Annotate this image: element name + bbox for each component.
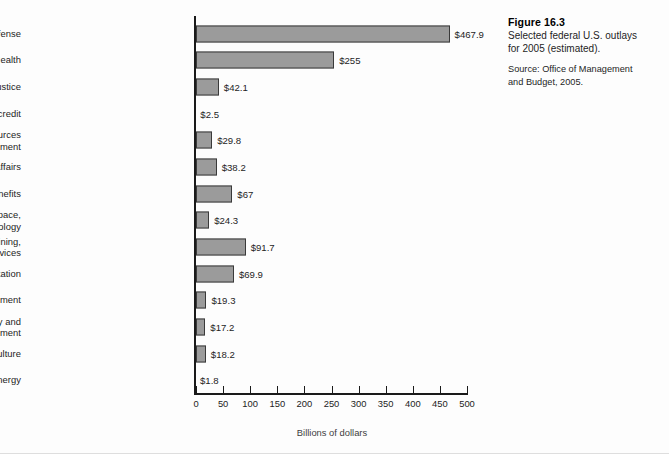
bar-row: Education, training, employment and soci… — [0, 234, 500, 261]
bar-value-label: $29.8 — [217, 135, 241, 146]
bar-and-value: $255 — [196, 52, 361, 69]
category-label: Energy — [0, 375, 21, 386]
bar-and-value: $1.8 — [196, 372, 219, 389]
bar-value-label: $17.2 — [210, 321, 234, 332]
category-label: General government — [0, 295, 21, 306]
x-axis-tick — [277, 386, 278, 394]
x-axis-tick — [332, 386, 333, 394]
bar — [196, 238, 246, 255]
bar-and-value: $91.7 — [196, 238, 275, 255]
bar-and-value: $67 — [196, 185, 253, 202]
x-axis-tick — [413, 386, 414, 394]
bar-value-label: $2.5 — [200, 108, 219, 119]
x-axis-tick-label: 400 — [405, 398, 421, 409]
x-axis-tick-label: 100 — [242, 398, 258, 409]
category-label: Natural resources and environment — [0, 129, 21, 152]
category-label: Science, space, and technology — [0, 209, 21, 232]
bar — [196, 212, 209, 229]
category-label: National defense — [0, 28, 21, 39]
category-label: Community and regional development — [0, 316, 21, 339]
bar-row: National defense$467.9 — [0, 21, 500, 48]
bar-row: Health$255 — [0, 47, 500, 74]
bar-value-label: $42.1 — [224, 82, 248, 93]
x-axis-tick — [440, 386, 441, 394]
bar-and-value: $18.2 — [196, 345, 235, 362]
category-label: Transportation — [0, 268, 21, 279]
bar-value-label: $467.9 — [455, 28, 484, 39]
bar-row: Transportation$69.9 — [0, 260, 500, 287]
category-label: Education, training, employment and soci… — [0, 236, 21, 259]
bar-row: Veterans benefits$67 — [0, 180, 500, 207]
bar-row: Community and regional development$17.2 — [0, 314, 500, 341]
bar — [196, 132, 212, 149]
bar-value-label: $18.2 — [211, 348, 235, 359]
x-axis-tick — [196, 386, 197, 394]
category-label: Health — [0, 55, 21, 66]
bar — [196, 52, 334, 69]
bar-and-value: $69.9 — [196, 265, 263, 282]
bar-and-value: $17.2 — [196, 318, 234, 335]
bar-row: Science, space, and technology$24.3 — [0, 207, 500, 234]
x-axis-tick-label: 300 — [351, 398, 367, 409]
bar-row: Commerce and housing credit$2.5 — [0, 100, 500, 127]
bar — [196, 79, 219, 96]
x-axis-tick — [359, 386, 360, 394]
x-axis-tick-label: 250 — [324, 398, 340, 409]
bar-value-label: $24.3 — [214, 215, 238, 226]
x-axis-tick — [386, 386, 387, 394]
bar-value-label: $255 — [339, 55, 360, 66]
bar-value-label: $91.7 — [251, 241, 275, 252]
bar-value-label: $1.8 — [200, 375, 219, 386]
category-label: Justice — [0, 81, 21, 92]
figure-container: National defense$467.9Health$255Justice$… — [0, 0, 669, 454]
figure-source-line-2: and Budget, 2005. — [508, 76, 658, 88]
bar-row: Justice$42.1 — [0, 74, 500, 101]
bar-and-value: $19.3 — [196, 292, 235, 309]
bar — [196, 25, 450, 42]
y-axis-line — [194, 16, 196, 394]
category-label: Commerce and housing credit — [0, 108, 21, 119]
figure-description-line-2: for 2005 (estimated). — [508, 42, 658, 55]
bar — [196, 105, 197, 122]
bar — [196, 159, 217, 176]
bar-row: International affairs$38.2 — [0, 154, 500, 181]
bar-value-label: $38.2 — [222, 162, 246, 173]
x-axis-tick-label: 50 — [218, 398, 228, 409]
bar — [196, 185, 232, 202]
x-axis-tick — [250, 386, 251, 394]
bar — [196, 318, 205, 335]
x-axis-tick — [223, 386, 224, 394]
figure-description-line-1: Selected federal U.S. outlays — [508, 29, 658, 42]
bar-value-label: $67 — [237, 188, 253, 199]
x-axis-tick — [304, 386, 305, 394]
x-axis-tick — [467, 386, 468, 394]
x-axis-tick-label: 350 — [378, 398, 394, 409]
bar-value-label: $19.3 — [211, 295, 235, 306]
bar-and-value: $29.8 — [196, 132, 241, 149]
category-label: International affairs — [0, 161, 21, 172]
figure-number: Figure 16.3 — [508, 16, 658, 28]
category-label: Veterans benefits — [0, 188, 21, 199]
x-axis-title: Billions of dollars — [196, 427, 468, 438]
figure-source-line-1: Source: Office of Management — [508, 63, 658, 75]
bar-value-label: $69.9 — [239, 268, 263, 279]
x-axis-tick-label: 200 — [297, 398, 313, 409]
bar-row: General government$19.3 — [0, 287, 500, 314]
bar-and-value: $467.9 — [196, 25, 484, 42]
figure-caption: Figure 16.3 Selected federal U.S. outlay… — [508, 16, 658, 88]
bar-row: Natural resources and environment$29.8 — [0, 127, 500, 154]
bar-and-value: $2.5 — [196, 105, 219, 122]
bar-and-value: $38.2 — [196, 159, 246, 176]
x-axis-tick-label: 0 — [193, 398, 198, 409]
x-axis-tick-label: 500 — [459, 398, 475, 409]
bar — [196, 292, 206, 309]
bar — [196, 345, 206, 362]
bar-and-value: $24.3 — [196, 212, 238, 229]
bar-row: Agriculture$18.2 — [0, 340, 500, 367]
x-axis-tick-label: 450 — [432, 398, 448, 409]
bar-and-value: $42.1 — [196, 79, 248, 96]
figure-source: Source: Office of Management and Budget,… — [508, 63, 658, 87]
category-label: Agriculture — [0, 348, 21, 359]
bar — [196, 265, 234, 282]
x-axis-tick-label: 150 — [269, 398, 285, 409]
